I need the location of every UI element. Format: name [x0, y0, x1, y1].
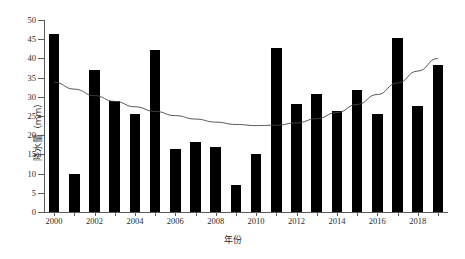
bar: [130, 114, 141, 212]
y-axis-label: 15: [0, 150, 36, 159]
bar: [49, 34, 60, 212]
bar: [251, 154, 262, 212]
x-axis-label: 2012: [288, 217, 305, 226]
x-axis-label: 2010: [248, 217, 265, 226]
x-axis-label: 2014: [328, 217, 345, 226]
x-axis-tick: [74, 212, 75, 216]
y-axis-tick: [38, 212, 44, 213]
x-axis-tick: [317, 212, 318, 216]
x-axis-label: 2016: [369, 217, 386, 226]
y-axis-label: 20: [0, 131, 36, 140]
x-axis-tick: [155, 212, 156, 216]
bar: [372, 114, 383, 212]
y-axis-label: 45: [0, 35, 36, 44]
bar: [332, 111, 343, 212]
bar: [392, 38, 403, 212]
y-axis-label: 10: [0, 169, 36, 178]
x-axis-tick: [398, 212, 399, 216]
bar: [433, 65, 444, 212]
x-axis-tick: [236, 212, 237, 216]
trend-line-layer: [44, 20, 448, 212]
bar: [89, 70, 100, 212]
y-axis-label: 40: [0, 54, 36, 63]
y-axis-label: 5: [0, 189, 36, 198]
x-axis-label: 2018: [409, 217, 426, 226]
bar: [311, 94, 322, 212]
bar: [231, 185, 242, 212]
x-axis-label: 2006: [167, 217, 184, 226]
x-axis-tick: [196, 212, 197, 216]
bar: [412, 106, 423, 212]
y-axis-label: 0: [0, 208, 36, 217]
y-axis-label: 50: [0, 16, 36, 25]
bar: [190, 142, 201, 212]
y-axis-label: 30: [0, 93, 36, 102]
bar: [210, 147, 221, 212]
bar: [150, 50, 161, 212]
bar: [170, 149, 181, 212]
bar: [69, 174, 80, 212]
precipitation-bar-chart: 降水量（mm） 05101520253035404550 20002002200…: [0, 0, 465, 259]
plot-area: [44, 20, 448, 212]
x-axis-label: 2002: [86, 217, 103, 226]
x-axis-tick: [115, 212, 116, 216]
bar: [109, 101, 120, 212]
bar: [352, 90, 363, 212]
x-axis-title: 年份: [224, 233, 242, 246]
x-axis-tick: [357, 212, 358, 216]
x-axis-tick: [276, 212, 277, 216]
x-axis-label: 2000: [46, 217, 63, 226]
y-axis-label: 25: [0, 112, 36, 121]
x-axis-line: [44, 212, 448, 213]
x-axis-label: 2004: [126, 217, 143, 226]
bar: [291, 104, 302, 212]
y-axis-label: 35: [0, 73, 36, 82]
x-axis-tick: [438, 212, 439, 216]
x-axis-label: 2008: [207, 217, 224, 226]
bar: [271, 48, 282, 212]
